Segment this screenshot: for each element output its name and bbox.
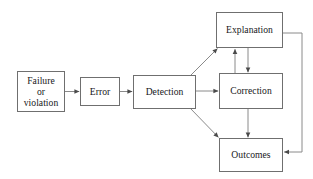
node-error[interactable]: Error [80,77,120,106]
node-outcomes[interactable]: Outcomes [219,138,283,172]
node-explanation[interactable]: Explanation [216,12,283,48]
node-label-detection: Detection [144,86,186,97]
edge-detection-to-outcomes [190,108,218,137]
node-label-error: Error [88,86,113,97]
node-label-explanation: Explanation [224,24,275,35]
node-label-outcomes: Outcomes [229,149,272,160]
node-label-correction: Correction [228,85,274,96]
node-correction[interactable]: Correction [219,73,283,109]
node-failure-or-violation[interactable]: Failure or violation [17,71,65,112]
flow-diagram: Failure or violation Error Detection Exp… [0,0,313,179]
node-detection[interactable]: Detection [133,75,196,109]
edge-detection-to-explanation [190,49,217,76]
edge-explanation-to-outcomes [283,33,302,152]
node-label-failure-or-violation: Failure or violation [22,75,61,109]
